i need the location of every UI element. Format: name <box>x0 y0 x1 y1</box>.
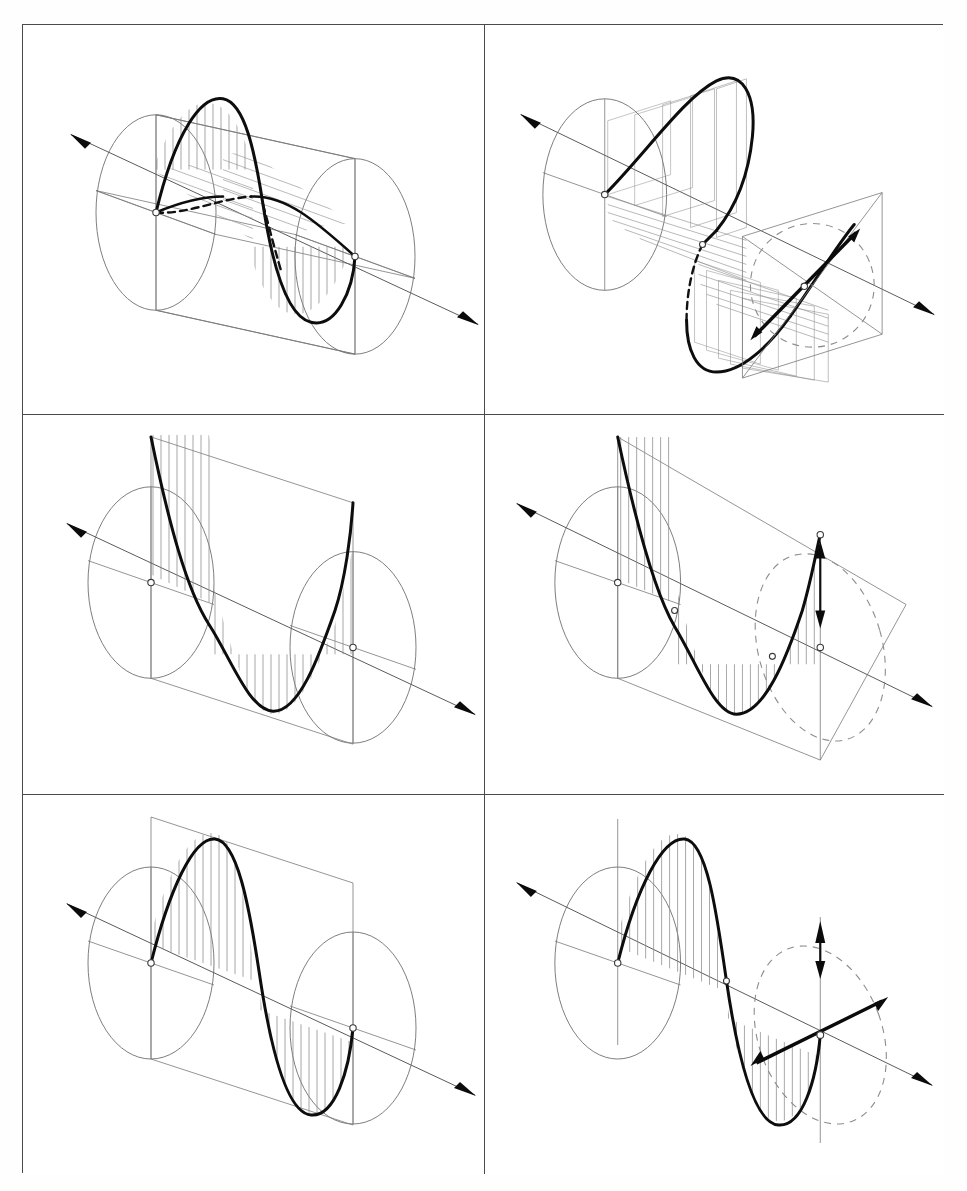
upper-slab-hatching <box>608 197 747 281</box>
panel-1-circularly-polarized-wave-in-cylinder <box>23 25 484 415</box>
vertical-plane-rectangle <box>151 817 353 1125</box>
panel-2-rotating-field-with-projection-screen <box>484 25 944 415</box>
vertical-plane-rectangle <box>156 115 355 354</box>
vertical-hatching-trough <box>215 535 351 734</box>
amplitude-double-arrow <box>815 921 825 979</box>
end-circle-cross-axes <box>96 115 415 354</box>
node-markers <box>148 960 356 1031</box>
propagation-axis-arrow <box>66 903 476 1096</box>
panel-4-plane-polarized-wave-with-amplitude-arrow <box>484 415 944 795</box>
amplitude-double-arrow <box>815 541 825 629</box>
vertical-hatching-upper <box>157 65 245 284</box>
sine-curve <box>151 839 353 1115</box>
panel-grid <box>22 24 943 1173</box>
projection-screen-square <box>742 193 882 379</box>
node-markers <box>153 209 358 259</box>
end-circle-cross-axes <box>88 487 416 743</box>
sine-curve <box>618 437 821 714</box>
sine-curve <box>618 839 821 1125</box>
sine-curve-horizontal <box>156 196 355 256</box>
panel-3-plane-polarized-sine-wave <box>23 415 484 795</box>
cylinder-outline <box>96 115 415 354</box>
propagation-axis-arrow <box>70 134 479 326</box>
envelope-curve <box>605 78 854 372</box>
panel-6-sine-wave-with-field-vectors <box>484 795 944 1174</box>
figure-page <box>0 0 967 1191</box>
propagation-axis-arrow <box>516 503 933 707</box>
sine-curve <box>151 437 353 711</box>
lower-slab-hatching <box>699 264 829 342</box>
node-markers <box>615 960 824 1039</box>
propagation-axis-arrow <box>516 882 933 1086</box>
horizontal-plane-rectangle <box>96 191 415 279</box>
panel-5-sine-wave-shifted-phase <box>23 795 484 1174</box>
end-circle-cross-axes <box>88 867 416 1124</box>
